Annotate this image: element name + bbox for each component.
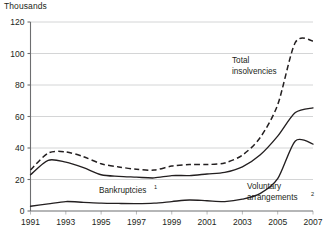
x-tick-label: 2003 bbox=[233, 217, 252, 227]
total-insolvencies-label-line2: insolvencies bbox=[232, 67, 277, 76]
x-tick-label: 1993 bbox=[56, 217, 75, 227]
y-tick-label: 100 bbox=[10, 49, 24, 59]
voluntary-arrangements-label-line2: arrangements bbox=[247, 193, 298, 202]
total-insolvencies-label-line1: Total bbox=[232, 56, 249, 65]
x-tick-label: 2007 bbox=[304, 217, 323, 227]
y-tick-label: 40 bbox=[15, 143, 25, 153]
bankruptcies-footnote-marker: 1 bbox=[154, 184, 157, 190]
x-tick-label: 1997 bbox=[127, 217, 146, 227]
series-total-insolvencies bbox=[31, 38, 314, 170]
annotation-total-insolvencies: Total insolvencies bbox=[232, 56, 277, 76]
series-bankruptcies bbox=[31, 108, 314, 178]
x-tick-labels-group: 199119931995199719992001200320052007 bbox=[21, 217, 323, 227]
annotation-bankruptcies: Bankruptcies 1 bbox=[99, 184, 157, 195]
x-tick-label: 2001 bbox=[198, 217, 217, 227]
annotation-voluntary-arrangements: Voluntary arrangements 2 bbox=[247, 182, 314, 202]
voluntary-arrangements-footnote-marker: 2 bbox=[311, 191, 314, 197]
chart-canvas: 020406080100120 199119931995199719992001… bbox=[0, 0, 323, 242]
y-tick-label: 0 bbox=[20, 206, 25, 216]
x-tick-label: 2005 bbox=[268, 217, 287, 227]
insolvencies-line-chart: Thousands 020406080100120 19911993199519… bbox=[0, 0, 323, 242]
y-tick-labels-group: 020406080100120 bbox=[10, 17, 24, 216]
bankruptcies-label: Bankruptcies bbox=[99, 186, 146, 195]
y-tick-label: 20 bbox=[15, 175, 25, 185]
y-tick-label: 120 bbox=[10, 17, 24, 27]
y-tick-label: 60 bbox=[15, 112, 25, 122]
x-tick-label: 1999 bbox=[162, 217, 181, 227]
y-tick-label: 80 bbox=[15, 80, 25, 90]
x-tick-label: 1995 bbox=[92, 217, 111, 227]
voluntary-arrangements-label-line1: Voluntary bbox=[247, 182, 282, 191]
x-tick-label: 1991 bbox=[21, 217, 40, 227]
